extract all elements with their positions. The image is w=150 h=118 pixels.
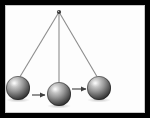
pivot-point bbox=[57, 10, 61, 14]
string-left bbox=[18, 12, 59, 80]
string-right bbox=[59, 12, 99, 80]
bob-center bbox=[47, 82, 71, 106]
string-group bbox=[18, 12, 99, 86]
bob-left bbox=[6, 76, 30, 100]
bob-right bbox=[87, 76, 111, 100]
figure-root: A pendulum shown at three positions: rai… bbox=[0, 0, 150, 118]
pendulum-diagram bbox=[0, 0, 150, 118]
